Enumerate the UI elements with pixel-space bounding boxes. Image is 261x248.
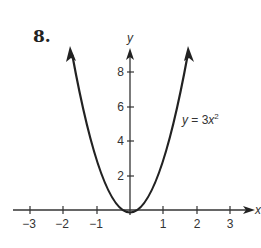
x-tick-label: 3	[227, 217, 234, 231]
x-tick-label: −1	[89, 217, 103, 231]
x-tick-label: −2	[55, 217, 69, 231]
parabola-graph: −3 −2 −1 1 2 3 2 4 6 8 x y y = 3x2	[0, 0, 261, 248]
y-tick-label: 6	[117, 100, 124, 114]
y-tick-label: 4	[117, 134, 124, 148]
y-tick-label: 2	[117, 169, 124, 183]
equation-label: y = 3x2	[181, 112, 219, 127]
x-tick-label: −3	[22, 217, 36, 231]
y-tick-label: 8	[117, 65, 124, 79]
curve-left-arrow-icon	[66, 46, 76, 62]
curve-right-arrow-icon	[184, 46, 194, 62]
y-axis-label: y	[126, 31, 134, 45]
x-tick-label: 1	[160, 217, 167, 231]
y-axis	[126, 48, 134, 215]
x-tick-label: 2	[194, 217, 201, 231]
x-axis-label: x	[254, 203, 261, 217]
